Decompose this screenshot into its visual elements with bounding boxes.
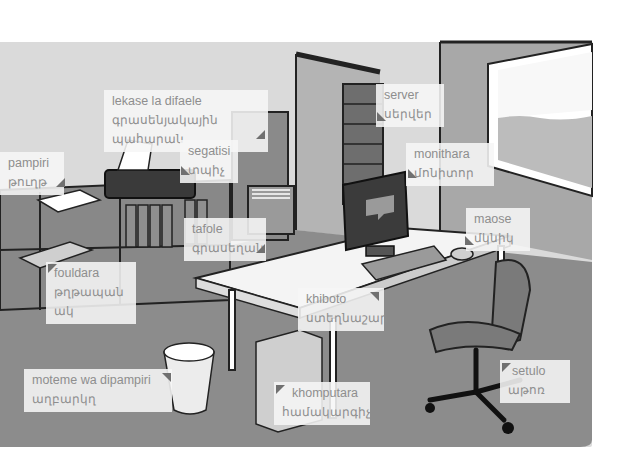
label-stapler: segatisi տպիչ: [180, 140, 238, 183]
label-computer-line2: համակարգիչ: [282, 403, 362, 422]
pointer-marker-icon: [256, 244, 265, 253]
pointer-marker-icon: [370, 292, 379, 301]
label-computer: khomputara համակարգիչ: [274, 382, 370, 425]
label-server-line1: server: [384, 86, 436, 105]
label-wastebasket-line2: աղբարկղ: [32, 390, 164, 409]
label-paper-line1: pampiri: [8, 154, 56, 173]
label-wastebasket: moteme wa dipampiri աղբարկղ: [24, 369, 172, 412]
label-keyboard-line2: ստեղնաշար: [306, 309, 376, 328]
label-desk: tafole գրասեղան: [184, 218, 266, 261]
label-stapler-line2: տպիչ: [188, 161, 230, 180]
label-paper-line2: թուղթ: [8, 173, 56, 192]
label-computer-line1: khomputara: [282, 384, 362, 403]
label-desk-line1: tafole: [192, 220, 258, 239]
label-monitor-line2: մոնիտոր: [414, 164, 486, 183]
pointer-marker-icon: [465, 236, 474, 245]
pointer-marker-icon: [408, 169, 417, 178]
label-mouse-line1: maose: [474, 210, 522, 229]
label-chair-line2: աթոռ: [508, 381, 562, 400]
pointer-marker-icon: [256, 130, 265, 139]
label-printer-line1: lekase la difaele: [112, 92, 260, 111]
label-chair-line1: setulo: [508, 362, 562, 381]
label-server: server սերվեր: [376, 84, 444, 127]
label-folder-line2: թղթապանակ: [54, 283, 126, 321]
pointer-marker-icon: [162, 373, 171, 382]
label-folder-line1: fouldara: [54, 264, 128, 283]
pointer-marker-icon: [276, 385, 285, 394]
pointer-marker-icon: [48, 264, 57, 273]
label-server-line2: սերվեր: [384, 105, 436, 124]
label-desk-line2: գրասեղան: [192, 239, 258, 258]
label-stapler-line1: segatisi: [188, 142, 230, 161]
pointer-marker-icon: [56, 178, 65, 187]
label-monitor: monithara մոնիտոր: [406, 143, 494, 186]
pointer-marker-icon: [502, 363, 511, 372]
label-monitor-line1: monithara: [414, 145, 486, 164]
label-keyboard-line1: khiboto: [306, 290, 376, 309]
label-paper: pampiri թուղթ: [0, 152, 64, 195]
pointer-marker-icon: [377, 112, 386, 121]
pointer-marker-icon: [181, 166, 190, 175]
label-mouse: maose մկնիկ: [466, 208, 530, 251]
label-folder: fouldara թղթապանակ: [46, 262, 136, 324]
label-wastebasket-line1: moteme wa dipampiri: [32, 371, 164, 390]
label-mouse-line2: մկնիկ: [474, 229, 522, 248]
